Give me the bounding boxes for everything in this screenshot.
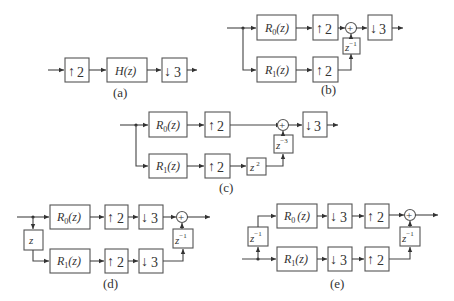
arrow bbox=[163, 249, 183, 261]
up2-bottom-block: ↑ 2 bbox=[105, 249, 128, 273]
down-arrow-icon: ↓ bbox=[305, 118, 312, 133]
factor-label: 3 bbox=[174, 65, 181, 80]
adder: + bbox=[278, 119, 289, 131]
panel-b: R0(z) R1(z) ↑ 2 ↑ 2 + z−1 bbox=[227, 15, 403, 97]
delay-out-block: z−1 bbox=[400, 227, 420, 246]
svg-text:R1(z): R1(z) bbox=[155, 159, 180, 175]
factor-label: 2 bbox=[117, 255, 124, 270]
arrow bbox=[389, 247, 410, 259]
delay-block: z−3 bbox=[274, 135, 293, 153]
down-arrow-icon: ↓ bbox=[330, 252, 337, 267]
down3-bottom-block: ↓ 3 bbox=[328, 247, 352, 271]
up2-top-block: ↑ 2 bbox=[365, 204, 389, 228]
factor-label: 2 bbox=[77, 65, 84, 80]
R0-block: R0(z) bbox=[257, 15, 296, 40]
factor-label: 2 bbox=[217, 119, 224, 134]
up2-top-block: ↑ 2 bbox=[105, 205, 128, 229]
R0-block: R0(z) bbox=[50, 205, 90, 229]
adder: + bbox=[405, 209, 416, 221]
downsample-3-block: ↓ 3 bbox=[162, 58, 187, 82]
down3-block: ↓ 3 bbox=[303, 112, 327, 137]
R0-block: R0(z) bbox=[149, 112, 187, 137]
up2-bottom-block: ↑ 2 bbox=[365, 247, 389, 271]
svg-text:R0(z): R0(z) bbox=[264, 21, 289, 37]
up2-top-block: ↑ 2 bbox=[205, 112, 230, 137]
down-arrow-icon: ↓ bbox=[141, 254, 148, 269]
panel-label: (c) bbox=[219, 180, 233, 195]
arrow bbox=[258, 216, 276, 227]
filter-label: H(z) bbox=[114, 64, 136, 78]
panel-label: (b) bbox=[321, 82, 336, 97]
plus-icon: + bbox=[279, 119, 285, 131]
delay-in-block: z−1 bbox=[248, 227, 268, 246]
down-arrow-icon: ↓ bbox=[141, 210, 148, 225]
down-arrow-icon: ↓ bbox=[370, 21, 377, 36]
svg-text:R1(z): R1(z) bbox=[56, 254, 81, 270]
plus-icon: + bbox=[178, 211, 184, 223]
branch-arrow bbox=[243, 28, 256, 70]
factor-label: 3 bbox=[314, 119, 321, 134]
panel-c: R0(z) R1(z) ↑ 2 ↑ 2 z2 z−3 bbox=[120, 112, 338, 195]
svg-text:R1(z): R1(z) bbox=[264, 63, 289, 79]
down3-block: ↓ 3 bbox=[368, 15, 392, 40]
panel-d: z R0(z) R1(z) ↑ 2 ↑ 2 ↓ 3 bbox=[17, 205, 210, 291]
R0-block: R0(z) bbox=[277, 204, 317, 228]
up-arrow-icon: ↑ bbox=[208, 118, 215, 133]
up-arrow-icon: ↑ bbox=[367, 252, 374, 267]
up-arrow-icon: ↑ bbox=[68, 64, 75, 79]
panel-e: z−1 R0(z) R1(z) ↓ 3 ↓ 3 ↑ 2 bbox=[242, 204, 438, 291]
factor-label: 2 bbox=[117, 211, 124, 226]
panel-label: (e) bbox=[330, 276, 344, 291]
factor-label: 3 bbox=[340, 210, 347, 225]
factor-label: 2 bbox=[377, 210, 384, 225]
factor-label: 3 bbox=[340, 253, 347, 268]
adder: + bbox=[346, 22, 357, 34]
factor-label: 3 bbox=[151, 255, 158, 270]
filter-H-block: H(z) bbox=[107, 58, 147, 82]
R1-block: R1(z) bbox=[50, 249, 90, 273]
up-arrow-icon: ↑ bbox=[316, 63, 323, 78]
advance-block: z2 bbox=[247, 158, 266, 175]
down-arrow-icon: ↓ bbox=[164, 64, 171, 79]
up2-bottom-block: ↑ 2 bbox=[313, 57, 338, 82]
svg-text:R0(z): R0(z) bbox=[56, 210, 81, 226]
factor-label: 3 bbox=[151, 211, 158, 226]
down3-bottom-block: ↓ 3 bbox=[139, 249, 163, 273]
panel-label: (d) bbox=[103, 276, 118, 291]
factor-label: 2 bbox=[325, 22, 332, 37]
plus-icon: + bbox=[347, 22, 353, 34]
adder: + bbox=[177, 211, 188, 223]
arrow bbox=[338, 54, 351, 70]
R1-block: R1(z) bbox=[257, 57, 296, 82]
plus-icon: + bbox=[406, 209, 412, 221]
svg-text:R0(z): R0(z) bbox=[283, 209, 310, 225]
down-arrow-icon: ↓ bbox=[330, 209, 337, 224]
factor-label: 2 bbox=[325, 64, 332, 79]
up-arrow-icon: ↑ bbox=[367, 209, 374, 224]
up-arrow-icon: ↑ bbox=[208, 159, 215, 174]
arrow bbox=[266, 154, 283, 166]
down3-top-block: ↓ 3 bbox=[139, 205, 163, 229]
up2-top-block: ↑ 2 bbox=[313, 15, 338, 40]
factor-label: 3 bbox=[379, 22, 386, 37]
arrow bbox=[33, 250, 49, 261]
multirate-diagram: ↑ 2 H(z) ↓ 3 (a) R0(z) R1(z) bbox=[0, 0, 454, 301]
panel-a: ↑ 2 H(z) ↓ 3 (a) bbox=[48, 58, 197, 100]
factor-label: 2 bbox=[217, 160, 224, 175]
down3-top-block: ↓ 3 bbox=[328, 204, 352, 228]
svg-text:z: z bbox=[28, 234, 34, 246]
up2-bottom-block: ↑ 2 bbox=[205, 154, 230, 178]
factor-label: 2 bbox=[377, 253, 384, 268]
svg-text:R0(z): R0(z) bbox=[155, 118, 180, 134]
branch-arrow bbox=[136, 125, 148, 166]
R1-block: R1(z) bbox=[277, 247, 317, 271]
upsample-2-block: ↑ 2 bbox=[65, 58, 89, 82]
up-arrow-icon: ↑ bbox=[107, 254, 114, 269]
delay-block: z−1 bbox=[173, 229, 193, 248]
up-arrow-icon: ↑ bbox=[316, 21, 323, 36]
svg-text:R1(z): R1(z) bbox=[283, 252, 308, 268]
up-arrow-icon: ↑ bbox=[107, 210, 114, 225]
delay-block: z−1 bbox=[343, 38, 360, 54]
R1-block: R1(z) bbox=[149, 154, 187, 178]
advance-z-block: z bbox=[24, 230, 43, 250]
